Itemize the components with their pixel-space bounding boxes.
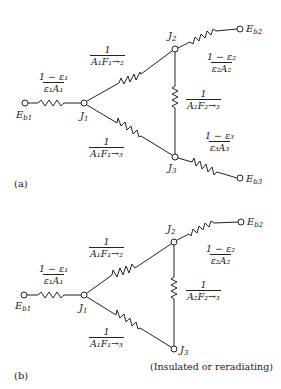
resistance-r12-b: 1 A₁F₁→₂ — [89, 237, 124, 259]
label-eb2-a: Eb2 — [246, 24, 262, 36]
node-eb2-b — [238, 219, 244, 225]
wire-eb1-j1-a — [28, 100, 81, 106]
wire-j2-eb2-a — [178, 29, 237, 48]
label-j2-b: J2 — [167, 224, 175, 236]
resistance-r13-a: 1 A₁F₁→₃ — [89, 137, 124, 159]
wire-j3-eb3-a — [178, 158, 237, 178]
resistance-r2-a: 1 − ε₂ ε₂A₂ — [206, 52, 237, 74]
node-j3-b — [171, 346, 177, 352]
label-eb3-a: Eb3 — [246, 174, 262, 186]
label-eb2-b: Eb2 — [247, 217, 263, 229]
resistance-r1-b: 1 − ε₁ ε₁A₁ — [38, 264, 69, 286]
wire-j2-j3-a — [172, 52, 178, 154]
radiation-network-diagram — [0, 0, 281, 389]
node-j1-b — [81, 292, 87, 298]
resistance-r2-b: 1 − ε₂ ε₂A₂ — [205, 244, 236, 266]
node-j1-a — [81, 100, 87, 106]
resistance-r1-a: 1 − ε₁ ε₁A₁ — [38, 72, 69, 94]
resistance-r23-a: 1 A₂F₂→₃ — [186, 89, 221, 111]
label-j3-b: J3 — [180, 345, 188, 357]
label-eb1-b: Eb1 — [15, 301, 31, 313]
wire-eb1-j1-b — [27, 292, 81, 298]
resistance-r3-a: 1 − ε₃ ε₃A₃ — [204, 131, 235, 153]
node-eb3-a — [237, 175, 243, 181]
label-j2-a: J2 — [168, 31, 176, 43]
panel-label-b: (b) — [14, 370, 28, 381]
node-j2-b — [171, 239, 177, 245]
node-eb2-a — [237, 26, 243, 32]
resistance-r12-a: 1 A₁F₁→₂ — [90, 45, 125, 67]
label-j3-a: J3 — [168, 163, 176, 175]
panel-label-a: (a) — [14, 178, 28, 189]
node-eb1-a — [22, 100, 28, 106]
label-j1-b: J1 — [79, 303, 87, 315]
label-j1-a: J1 — [80, 111, 88, 123]
resistance-r13-b: 1 A₁F₁→₃ — [89, 327, 124, 349]
wire-j2-j3-b — [171, 245, 177, 346]
node-eb1-b — [21, 292, 27, 298]
node-j3-a — [172, 154, 178, 160]
resistance-r23-b: 1 A₂F₂→₃ — [186, 280, 221, 302]
note-insulated: (Insulated or reradiating) — [150, 361, 273, 372]
label-eb1-a: Eb1 — [16, 110, 32, 122]
node-j2-a — [172, 46, 178, 52]
wire-j2-eb2-b — [177, 221, 238, 240]
